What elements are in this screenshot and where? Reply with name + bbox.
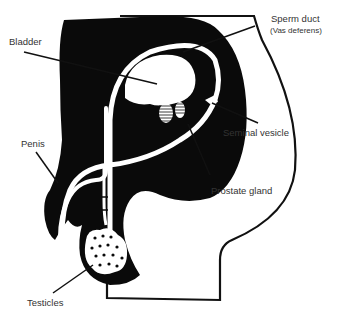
label-sperm-duct: Sperm duct: [271, 14, 320, 24]
label-penis: Penis: [21, 139, 45, 149]
label-vas-deferens: (Vas deferens): [270, 27, 322, 35]
label-bladder: Bladder: [9, 37, 42, 47]
label-seminal-vesicle: Seminal vesicle: [223, 128, 289, 138]
label-testicles: Testicles: [27, 298, 63, 308]
reproductive-system-diagram: [0, 0, 337, 319]
label-prostate-gland: Prostate gland: [211, 186, 272, 196]
